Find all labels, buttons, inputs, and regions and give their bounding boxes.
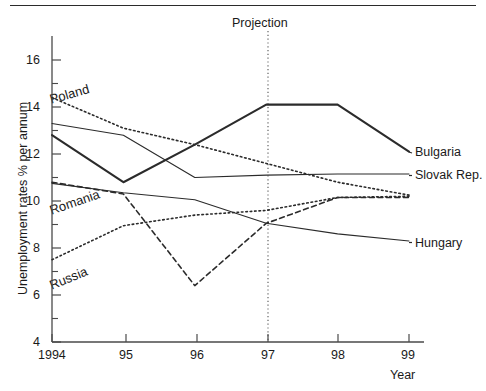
series-line-poland	[52, 98, 409, 196]
chart-plot-area	[0, 0, 486, 391]
series-line-bulgaria	[52, 105, 409, 183]
series-line-russia	[52, 196, 409, 259]
y-major-ticks	[52, 60, 61, 342]
chart-figure: Unemployment rates % per annum 16 14 12 …	[0, 0, 486, 391]
series-line-hungary	[52, 183, 409, 241]
x-major-ticks	[52, 334, 409, 342]
series-lines-group	[52, 98, 409, 286]
axes-group	[52, 36, 424, 342]
leader-line-bulgaria	[409, 152, 412, 153]
label-leader-lines	[409, 152, 412, 243]
